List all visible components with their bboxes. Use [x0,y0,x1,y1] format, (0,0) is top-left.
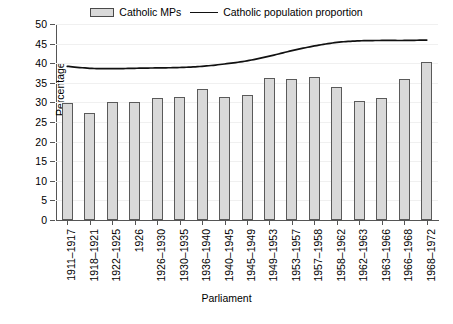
y-tick-label: 50 [35,19,47,29]
gridline [56,44,438,45]
y-tick [50,102,55,103]
x-tick-label: 1949–1953 [268,229,279,282]
x-tick [112,220,113,225]
x-tick [247,220,248,225]
legend-item-catholic-population: Catholic population proportion [190,7,363,18]
bar [152,98,163,220]
y-tick [50,220,55,221]
legend-label-catholic-population: Catholic population proportion [223,7,363,18]
bar [242,95,253,220]
bar [219,97,230,220]
x-tick-label: 1911–1917 [66,229,77,281]
y-tick [50,63,55,64]
x-tick [292,220,293,225]
chart-container: Catholic MPs Catholic population proport… [0,0,453,324]
y-tick-label: 30 [35,97,47,107]
bar [129,102,140,220]
gridline [56,24,438,25]
x-tick-label: 1922–1925 [111,229,122,282]
gridline [56,63,438,64]
x-tick [404,220,405,225]
bar [84,113,95,220]
x-tick [359,220,360,225]
bar [174,97,185,220]
x-tick [202,220,203,225]
x-tick [67,220,68,225]
x-tick [269,220,270,225]
line-swatch-icon [190,12,218,13]
bar [399,79,410,220]
x-tick-label: 1958–1962 [335,229,346,282]
y-tick-label: 40 [35,58,47,68]
x-axis-title: Parliament [0,292,453,304]
bar [264,78,275,220]
x-tick [337,220,338,225]
x-tick-label: 1945–1949 [246,229,257,282]
y-tick-label: 35 [35,78,47,88]
y-tick-label: 0 [41,215,47,225]
x-tick [314,220,315,225]
y-tick [50,161,55,162]
bar [421,62,432,220]
y-tick [50,142,55,143]
chart-legend: Catholic MPs Catholic population proport… [0,4,453,20]
y-tick [50,200,55,201]
y-tick-label: 15 [35,156,47,166]
x-tick-label: 1953–1957 [290,229,301,282]
x-tick-label: 1962–1963 [358,229,369,282]
bar [309,77,320,220]
y-tick [50,181,55,182]
x-tick [382,220,383,225]
bar [354,101,365,220]
y-tick-label: 45 [35,39,47,49]
x-tick [135,220,136,225]
x-tick-label: 1957–1958 [313,229,324,282]
x-tick [225,220,226,225]
x-tick-label: 1930–1935 [178,229,189,282]
bar [197,89,208,220]
x-tick-label: 1940–1945 [223,229,234,282]
y-tick [50,44,55,45]
x-tick-label: 1968–1972 [425,229,436,282]
y-tick [50,24,55,25]
legend-label-catholic-mps: Catholic MPs [119,7,181,18]
x-tick [90,220,91,225]
y-tick-label: 20 [35,137,47,147]
y-tick-label: 10 [35,176,47,186]
y-tick [50,122,55,123]
legend-item-catholic-mps: Catholic MPs [90,7,181,18]
x-tick-label: 1966–1968 [403,229,414,282]
y-tick-label: 5 [41,195,47,205]
plot-area: Percentage 05101520253035404550 1911–191… [56,24,438,220]
x-tick [157,220,158,225]
bar [376,98,387,220]
x-tick [427,220,428,225]
bar-swatch-icon [90,8,114,17]
x-tick-label: 1918–1921 [88,229,99,282]
bar [331,87,342,220]
x-tick-label: 1963–1966 [380,229,391,282]
x-tick-label: 1936–1940 [201,229,212,282]
y-tick [50,83,55,84]
x-tick [180,220,181,225]
bar [286,79,297,220]
y-tick-label: 25 [35,117,47,127]
x-tick-label: 1926–1930 [156,229,167,282]
gridline [56,83,438,84]
x-tick-label: 1926 [133,229,144,252]
bar [62,103,73,220]
bar [107,102,118,220]
